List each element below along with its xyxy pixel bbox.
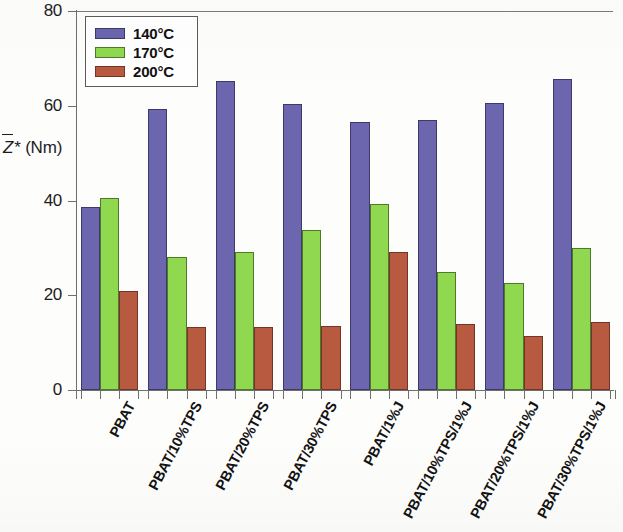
legend-swatch-200°C [95, 66, 125, 77]
bar-PBAT/20%TPS-200°C [254, 327, 273, 390]
bar-PBAT/20%TPS/1%J-170°C [504, 283, 523, 390]
bar-PBAT/20%TPS/1%J-140°C [485, 103, 504, 390]
bar-PBAT-170°C [100, 198, 119, 390]
x-tick [341, 390, 342, 399]
y-tick-label-0: 0 [20, 381, 62, 398]
legend-item-140°C: 140°C [95, 26, 174, 41]
x-tick [475, 390, 476, 399]
bar-PBAT/1%J-200°C [389, 252, 408, 390]
x-axis-label-PBAT: PBAT [106, 399, 138, 440]
x-tick [350, 390, 351, 399]
y-tick-label-60: 60 [20, 97, 62, 114]
bar-PBAT/10%TPS/1%J-140°C [418, 120, 437, 390]
bar-PBAT/30%TPS-200°C [321, 326, 340, 390]
x-tick [572, 390, 573, 399]
x-axis-label-PBAT/30%TPS: PBAT/30%TPS [280, 399, 340, 493]
x-tick [543, 390, 544, 399]
x-tick [321, 390, 322, 399]
x-axis-label-PBAT/10%TPS: PBAT/10%TPS [145, 399, 205, 493]
x-tick [167, 390, 168, 399]
legend-item-170°C: 170°C [95, 45, 174, 60]
x-tick [216, 390, 217, 399]
legend-swatch-170°C [95, 47, 125, 58]
x-tick [148, 390, 149, 399]
x-tick [504, 390, 505, 399]
x-tick [100, 390, 101, 399]
x-tick [610, 390, 611, 399]
bar-PBAT-140°C [81, 207, 100, 390]
y-axis-units: (Nm) [25, 138, 62, 157]
x-tick [302, 390, 303, 399]
x-axis-label-PBAT/1%J: PBAT/1%J [360, 399, 407, 468]
x-axis-label-PBAT/10%TPS/1%J: PBAT/10%TPS/1%J [400, 399, 475, 521]
bar-PBAT-200°C [119, 291, 138, 390]
x-axis-label-PBAT/20%TPS: PBAT/20%TPS [213, 399, 273, 493]
x-axis-label-PBAT/20%TPS/1%J: PBAT/20%TPS/1%J [467, 399, 542, 521]
x-tick [273, 390, 274, 399]
x-tick [408, 390, 409, 399]
x-tick [437, 390, 438, 399]
bar-PBAT/20%TPS/1%J-200°C [524, 336, 543, 390]
x-axis-line [76, 390, 614, 391]
x-tick [370, 390, 371, 399]
bar-PBAT/10%TPS-170°C [167, 257, 186, 390]
bar-PBAT/30%TPS/1%J-200°C [591, 322, 610, 390]
x-axis-label-PBAT/30%TPS/1%J: PBAT/30%TPS/1%J [534, 399, 609, 521]
x-tick [389, 390, 390, 399]
legend-swatch-140°C [95, 28, 125, 39]
y-axis-star: * [14, 138, 20, 157]
x-tick [485, 390, 486, 399]
x-tick [283, 390, 284, 399]
x-tick [81, 390, 82, 399]
bar-PBAT/30%TPS-140°C [283, 104, 302, 390]
x-tick [187, 390, 188, 399]
x-tick [615, 390, 616, 399]
bar-PBAT/10%TPS-200°C [187, 327, 206, 390]
x-tick [119, 390, 120, 399]
x-tick [138, 390, 139, 399]
bar-PBAT/20%TPS-140°C [216, 81, 235, 390]
bar-PBAT/10%TPS-140°C [148, 109, 167, 390]
x-tick [456, 390, 457, 399]
bar-PBAT/30%TPS/1%J-170°C [572, 248, 591, 390]
y-axis-title: Z* (Nm) [2, 138, 62, 158]
x-tick [553, 390, 554, 399]
legend-item-200°C: 200°C [95, 64, 174, 79]
bar-PBAT/10%TPS/1%J-200°C [456, 324, 475, 390]
bar-PBAT/20%TPS-170°C [235, 252, 254, 390]
legend-label-170°C: 170°C [133, 45, 174, 60]
legend-label-200°C: 200°C [133, 64, 174, 79]
x-tick [235, 390, 236, 399]
x-tick [591, 390, 592, 399]
y-tick-label-20: 20 [20, 286, 62, 303]
bar-PBAT/10%TPS/1%J-170°C [437, 272, 456, 390]
x-tick [206, 390, 207, 399]
x-tick [418, 390, 419, 399]
x-tick [524, 390, 525, 399]
bar-PBAT/30%TPS-170°C [302, 230, 321, 390]
legend: 140°C170°C200°C [85, 16, 198, 87]
y-axis-symbol: Z [2, 138, 14, 157]
bar-PBAT/1%J-170°C [370, 204, 389, 390]
bar-PBAT/30%TPS/1%J-140°C [553, 79, 572, 390]
bar-chart-figure: Z* (Nm) 020406080 PBATPBAT/10%TPSPBAT/20… [0, 0, 623, 532]
x-tick [76, 390, 77, 399]
x-tick [254, 390, 255, 399]
bar-PBAT/1%J-140°C [350, 122, 369, 390]
y-tick-label-80: 80 [20, 2, 62, 19]
legend-label-140°C: 140°C [133, 26, 174, 41]
y-tick-label-40: 40 [20, 192, 62, 209]
